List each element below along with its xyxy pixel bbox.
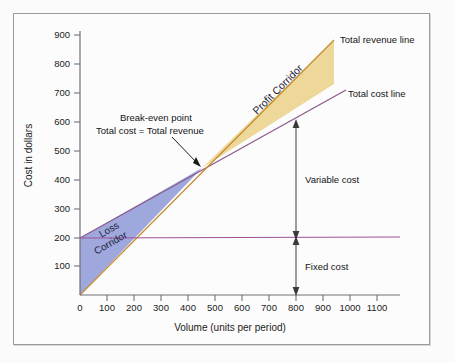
y-tick-100: 100 xyxy=(42,261,70,272)
x-tick-100: 100 xyxy=(93,303,121,314)
variable-cost-arrow xyxy=(293,119,300,240)
breakeven-arrow xyxy=(172,137,201,167)
fixed-cost-label: Fixed cost xyxy=(305,262,348,273)
fixed-cost-arrow xyxy=(293,236,300,296)
y-tick-600: 600 xyxy=(42,117,70,128)
x-tick-300: 300 xyxy=(147,303,175,314)
x-tick-400: 400 xyxy=(174,303,202,314)
x-tick-1100: 1100 xyxy=(362,303,392,314)
x-ticks xyxy=(107,295,377,301)
x-tick-600: 600 xyxy=(228,303,256,314)
total-revenue-line-label: Total revenue line xyxy=(340,35,414,46)
total-cost-line-label: Total cost line xyxy=(348,89,406,100)
y-tick-900: 900 xyxy=(42,30,70,41)
x-tick-700: 700 xyxy=(255,303,283,314)
variable-cost-label: Variable cost xyxy=(305,175,359,186)
x-tick-900: 900 xyxy=(309,303,337,314)
y-axis-title: Cost in dollars xyxy=(23,106,34,206)
y-tick-800: 800 xyxy=(42,59,70,70)
y-tick-300: 300 xyxy=(42,204,70,215)
x-tick-800: 800 xyxy=(282,303,310,314)
y-ticks xyxy=(74,35,80,266)
y-tick-500: 500 xyxy=(42,146,70,157)
breakeven-label-line2: Total cost = Total revenue xyxy=(96,126,204,137)
y-tick-700: 700 xyxy=(42,88,70,99)
x-tick-1000: 1000 xyxy=(335,303,365,314)
y-tick-200: 200 xyxy=(42,233,70,244)
x-tick-200: 200 xyxy=(120,303,148,314)
breakeven-label-line1: Break-even point xyxy=(120,113,192,124)
x-tick-0: 0 xyxy=(66,303,94,314)
x-axis-title: Volume (units per period) xyxy=(80,322,380,333)
y-tick-400: 400 xyxy=(42,175,70,186)
chart-page: 100 200 300 400 500 600 700 800 900 0 10… xyxy=(0,0,455,363)
x-tick-500: 500 xyxy=(201,303,229,314)
